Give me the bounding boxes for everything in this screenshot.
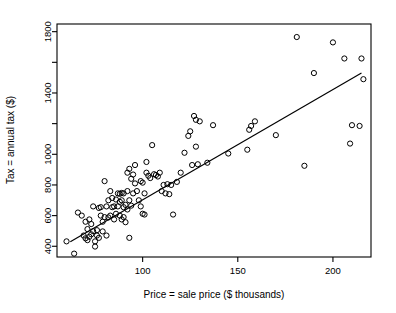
x-tick-label: 100 [135, 265, 151, 276]
x-tick-label: 200 [325, 265, 341, 276]
plot-canvas: 100150200 400600800100014001800 Price = … [0, 0, 396, 313]
x-tick-label: 150 [230, 265, 246, 276]
y-tick-label: 1400 [43, 82, 54, 103]
y-tick-label: 600 [43, 208, 54, 224]
y-tick-label: 800 [43, 177, 54, 193]
y-tick-label: 1800 [43, 21, 54, 42]
x-axis-title: Price = sale price ($ thousands) [144, 289, 285, 300]
scatter-plot-figure: 100150200 400600800100014001800 Price = … [0, 0, 396, 313]
y-tick-label: 400 [43, 238, 54, 254]
y-axis-title: Tax = annual tax ($) [5, 96, 16, 184]
y-tick-label: 1000 [43, 144, 54, 165]
